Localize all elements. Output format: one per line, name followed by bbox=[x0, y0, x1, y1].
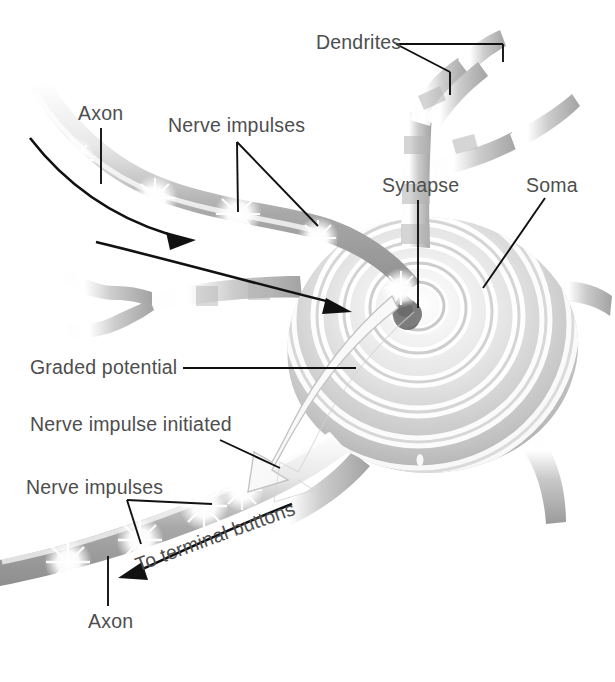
label-soma: Soma bbox=[526, 176, 578, 196]
label-nerve-impulses-top: Nerve impulses bbox=[168, 116, 305, 136]
leader-impulse-initiated bbox=[220, 440, 280, 468]
membrane-pore bbox=[417, 454, 424, 466]
impulse-flash bbox=[297, 217, 339, 259]
label-axon-bottom: Axon bbox=[88, 612, 133, 632]
label-axon-top: Axon bbox=[78, 104, 123, 124]
leader-impulses-top-a bbox=[237, 142, 238, 212]
impulse-flash bbox=[47, 135, 97, 185]
label-nerve-impulse-initiated: Nerve impulse initiated bbox=[30, 415, 232, 435]
label-synapse: Synapse bbox=[382, 176, 459, 196]
impulse-flash bbox=[132, 175, 178, 221]
impulse-flash bbox=[44, 538, 92, 586]
leader-dendrites-left bbox=[396, 44, 450, 72]
dendrite-tree-right bbox=[401, 30, 580, 248]
label-nerve-impulses-bottom: Nerve impulses bbox=[26, 478, 163, 498]
neuron-diagram: Dendrites Axon Nerve impulses Synapse So… bbox=[0, 0, 615, 682]
label-graded-potential: Graded potential bbox=[30, 358, 177, 378]
label-dendrites: Dendrites bbox=[316, 33, 401, 53]
